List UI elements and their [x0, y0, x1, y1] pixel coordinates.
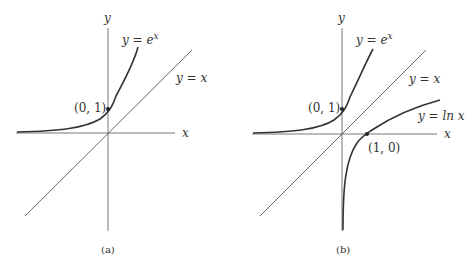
identity-label: y = x: [408, 72, 440, 86]
panel-b: y x y = ex y = x y = ln x (0, 1) (1, 0) …: [252, 11, 465, 255]
exp-label: y = ex: [355, 31, 393, 47]
exp-curve: [17, 47, 138, 132]
point-label: (0, 1): [74, 101, 106, 115]
point-0-1: [106, 107, 110, 111]
exp-label: y = ex: [121, 31, 159, 47]
y-axis-label: y: [337, 11, 345, 25]
exp-curve: [253, 49, 373, 133]
point-label-1-0: (1, 0): [368, 141, 400, 155]
figure: y x y = ex y = x (0, 1) (a) y x y = ex y…: [0, 0, 469, 267]
identity-label: y = x: [175, 71, 207, 85]
point-0-1: [340, 107, 344, 111]
panel-a: y x y = ex y = x (0, 1) (a): [16, 11, 207, 255]
caption-a: (a): [101, 244, 115, 255]
x-axis-label: x: [182, 126, 189, 140]
y-axis-label: y: [103, 11, 111, 25]
caption-b: (b): [336, 244, 350, 255]
point-1-0: [365, 132, 369, 136]
log-label: y = ln x: [417, 109, 465, 123]
x-axis-label: x: [444, 127, 451, 141]
identity-line: [260, 50, 426, 216]
point-label-0-1: (0, 1): [308, 101, 340, 115]
